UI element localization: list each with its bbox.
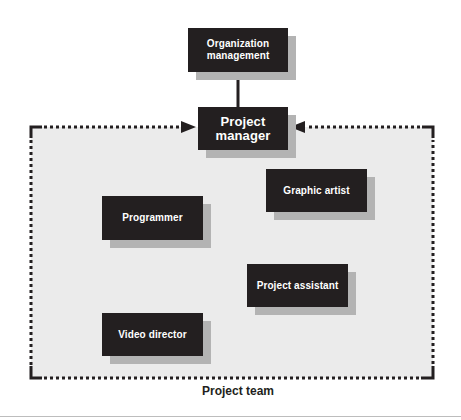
bottom-divider — [0, 416, 461, 417]
left-arrowhead-icon — [181, 121, 196, 133]
node-programmer: Programmer — [102, 196, 203, 240]
node-organization-management: Organization management — [188, 28, 288, 72]
node-project-manager: Project manager — [198, 107, 288, 150]
node-project-assistant: Project assistant — [247, 264, 348, 307]
right-arrowhead-icon — [290, 121, 305, 133]
team-frame — [31, 127, 433, 378]
node-video-director: Video director — [102, 313, 203, 356]
project-team-label: Project team — [0, 384, 461, 398]
node-graphic-artist: Graphic artist — [266, 169, 367, 212]
